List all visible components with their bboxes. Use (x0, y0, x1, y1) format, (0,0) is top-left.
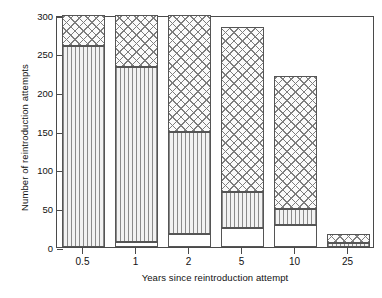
bar (62, 15, 105, 247)
bar (115, 15, 158, 247)
x-tick-label: 0.5 (59, 256, 107, 267)
x-tick-mark (347, 248, 348, 254)
y-tick-label: 200 (7, 88, 53, 99)
x-tick-label: 1 (112, 256, 160, 267)
x-tick-label: 2 (165, 256, 213, 267)
bar-segment-blank (168, 234, 211, 247)
y-tick-label: 150 (7, 127, 53, 138)
bar-segment-vertical-lines (221, 192, 264, 228)
bar (274, 76, 317, 247)
x-tick-label: 10 (271, 256, 319, 267)
bar-segment-crosshatch (327, 234, 370, 243)
bar-segment-crosshatch (221, 27, 264, 192)
y-tick-label: 300 (7, 11, 53, 22)
bar-segment-crosshatch (168, 15, 211, 132)
y-tick-label: 50 (7, 204, 53, 215)
bar (221, 27, 264, 247)
bar-segment-crosshatch (115, 15, 158, 67)
bar-segment-crosshatch (62, 15, 105, 46)
bar-segment-vertical-lines (115, 67, 158, 243)
x-tick-label: 5 (218, 256, 266, 267)
bar-segment-blank (274, 225, 317, 247)
y-tick-label: 0 (7, 243, 53, 254)
bar-segment-vertical-lines (62, 46, 105, 247)
x-tick-mark (82, 248, 83, 254)
x-tick-label: 25 (324, 256, 372, 267)
bar-segment-crosshatch (274, 76, 317, 209)
plot-area: 050100150200250300 (56, 16, 374, 248)
bar-segment-blank (221, 228, 264, 247)
x-tick-mark (188, 248, 189, 254)
x-axis-title: Years since reintroduction attempt (56, 272, 374, 283)
bar-segment-vertical-lines (274, 209, 317, 224)
bar-segment-vertical-lines (168, 132, 211, 234)
x-tick-mark (135, 248, 136, 254)
x-tick-mark (294, 248, 295, 254)
y-tick-label: 100 (7, 165, 53, 176)
y-tick-mark (57, 249, 63, 250)
bar-segment-vertical-lines (327, 243, 370, 247)
bar-segment-blank (115, 242, 158, 247)
bar (327, 234, 370, 247)
bar (168, 15, 211, 247)
y-tick-label: 250 (7, 49, 53, 60)
x-tick-mark (241, 248, 242, 254)
bar-chart-figure: Number of reintroduction attempts Years … (0, 0, 382, 298)
